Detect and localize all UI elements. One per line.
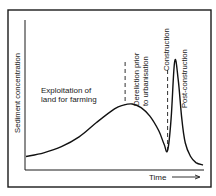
annotation-farming: Exploitation of land for farming [41, 86, 97, 104]
annotation-post-construction: Post-construction [180, 49, 189, 108]
annotation-farming-line-1: Exploitation of [41, 86, 92, 95]
y-axis-label: Sediment concentration [13, 53, 22, 133]
annotation-dereliction-line-1: Dereliction prior [132, 52, 141, 106]
annotation-farming-line-2: land for farming [41, 95, 97, 104]
annotation-dereliction: Dereliction prior to urbanisation [132, 52, 150, 106]
annotation-construction: Construction [162, 28, 171, 71]
sediment-curve [26, 60, 203, 165]
time-axis-label: Time [149, 173, 200, 182]
sediment-chart: Sediment concentration Time Exploitation… [0, 0, 216, 196]
annotation-dereliction-line-2: to urbanisation [141, 56, 150, 106]
x-axis-label: Time [149, 173, 167, 182]
